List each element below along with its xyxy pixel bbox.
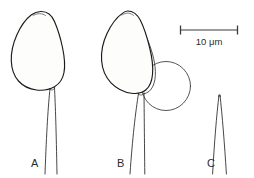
specimen-b: [98, 8, 191, 174]
panel-label-c: C: [207, 158, 215, 169]
scale-bar: [180, 26, 238, 35]
scale-bar-label: 10 μm: [176, 37, 242, 47]
panel-label-a: A: [31, 158, 39, 169]
figure-drawing: [0, 0, 254, 178]
specimen-c-stalk-right: [220, 95, 226, 174]
specimen-b-stalk-right: [144, 93, 145, 174]
specimen-a-stalk-left: [45, 89, 50, 175]
specimen-c-tip: [219, 95, 221, 96]
specimen-b-stalk-left: [130, 94, 139, 175]
panel-label-b: B: [117, 158, 125, 169]
figure-canvas: 10 μm A B C: [0, 0, 254, 178]
specimen-a-body-outline: [11, 11, 64, 90]
specimen-a-stalk-right: [55, 88, 58, 175]
specimen-a: [8, 8, 70, 174]
specimen-b-body-outline: [101, 11, 152, 93]
